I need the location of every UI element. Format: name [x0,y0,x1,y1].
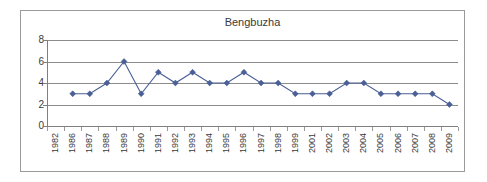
y-axis-tick-label: 8 [22,35,44,45]
y-axis-tick-mark [43,62,47,63]
x-axis-tick-label: 1996 [238,133,249,167]
x-axis-tick-mark [47,127,48,131]
gridline [47,83,458,84]
x-axis-tick-mark [321,127,322,131]
x-axis-tick-label: 1998 [273,133,284,167]
x-axis-tick-label: 2005 [375,133,386,167]
x-axis-tick-label: 1982 [50,133,61,167]
x-axis-tick-mark [458,127,459,131]
x-axis-tick-mark [355,127,356,131]
y-axis-tick-mark [43,40,47,41]
chart-title: Bengbuzha [47,14,458,30]
x-axis-tick-label: 1999 [290,133,301,167]
gridline [47,62,458,63]
x-axis-tick-mark [407,127,408,131]
gridline [47,105,458,106]
x-axis-tick-label: 1987 [84,133,95,167]
x-axis-tick-label: 1993 [187,133,198,167]
y-axis-line [47,40,48,127]
x-axis-tick-mark [304,127,305,131]
x-axis-tick-label: 2007 [410,133,421,167]
x-axis-tick-label: 2002 [324,133,335,167]
x-axis-tick-label: 2009 [444,133,455,167]
x-axis-tick-label: 2008 [427,133,438,167]
x-axis-tick-mark [98,127,99,131]
x-axis-tick-mark [64,127,65,131]
x-axis-tick-mark [184,127,185,131]
x-axis-tick-mark [167,127,168,131]
y-axis-tick-label: 0 [22,121,44,131]
y-axis-labels: 86420 [20,0,44,182]
y-axis-tick-label: 2 [22,100,44,110]
x-axis-tick-label: 1991 [153,133,164,167]
y-axis-tick-mark [43,83,47,84]
x-axis-tick-label: 1988 [101,133,112,167]
x-axis-tick-label: 1992 [170,133,181,167]
x-axis-tick-mark [133,127,134,131]
x-axis-tick-label: 2001 [307,133,318,167]
x-axis-tick-mark [270,127,271,131]
x-axis-tick-mark [390,127,391,131]
x-axis-tick-mark [235,127,236,131]
screenshot-root: Bengbuzha 86420 198219861987198819891990… [0,0,487,182]
x-axis-tick-mark [201,127,202,131]
x-axis-tick-label: 1994 [204,133,215,167]
x-axis-tick-mark [372,127,373,131]
y-axis-tick-label: 4 [22,78,44,88]
x-axis-tick-mark [338,127,339,131]
x-axis-tick-label: 1989 [119,133,130,167]
x-axis-tick-label: 1995 [221,133,232,167]
x-axis-tick-mark [218,127,219,131]
y-axis-tick-mark [43,105,47,106]
x-axis-tick-label: 1990 [136,133,147,167]
plot-area [47,40,458,126]
x-axis-tick-label: 1997 [256,133,267,167]
x-axis-tick-mark [81,127,82,131]
x-axis-tick-label: 2004 [358,133,369,167]
x-axis-tick-label: 1986 [67,133,78,167]
x-axis-tick-mark [441,127,442,131]
x-axis-tick-mark [253,127,254,131]
x-axis-tick-mark [116,127,117,131]
x-axis-tick-mark [424,127,425,131]
x-axis-tick-mark [287,127,288,131]
x-axis-tick-mark [150,127,151,131]
y-axis-tick-label: 6 [22,57,44,67]
x-axis-tick-label: 2003 [341,133,352,167]
x-axis-tick-label: 2006 [393,133,404,167]
gridline [47,40,458,41]
